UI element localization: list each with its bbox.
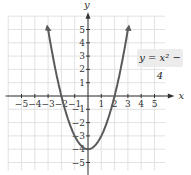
svg-text:3: 3 [79, 51, 85, 61]
svg-text:5: 5 [79, 25, 85, 35]
svg-text:−5: −5 [15, 99, 29, 109]
svg-text:1: 1 [79, 78, 85, 88]
svg-text:−4: −4 [72, 144, 86, 154]
svg-text:−2: −2 [55, 99, 68, 109]
svg-text:−2: −2 [72, 118, 85, 128]
svg-text:−5: −5 [72, 158, 86, 168]
svg-text:4: 4 [138, 99, 144, 109]
svg-text:4: 4 [79, 38, 85, 48]
parabola-plot: xy−5−4−3−2−112345−5−4−3−2−112345 [0, 0, 191, 175]
svg-text:x: x [178, 90, 184, 101]
svg-text:−4: −4 [28, 99, 42, 109]
svg-text:−1: −1 [72, 104, 85, 114]
equation-label: y = x² − 4 [137, 49, 183, 67]
svg-text:1: 1 [98, 99, 104, 109]
svg-text:3: 3 [125, 99, 131, 109]
svg-text:y: y [83, 0, 90, 10]
svg-text:2: 2 [79, 64, 85, 74]
svg-text:−3: −3 [41, 99, 55, 109]
svg-text:5: 5 [152, 99, 158, 109]
